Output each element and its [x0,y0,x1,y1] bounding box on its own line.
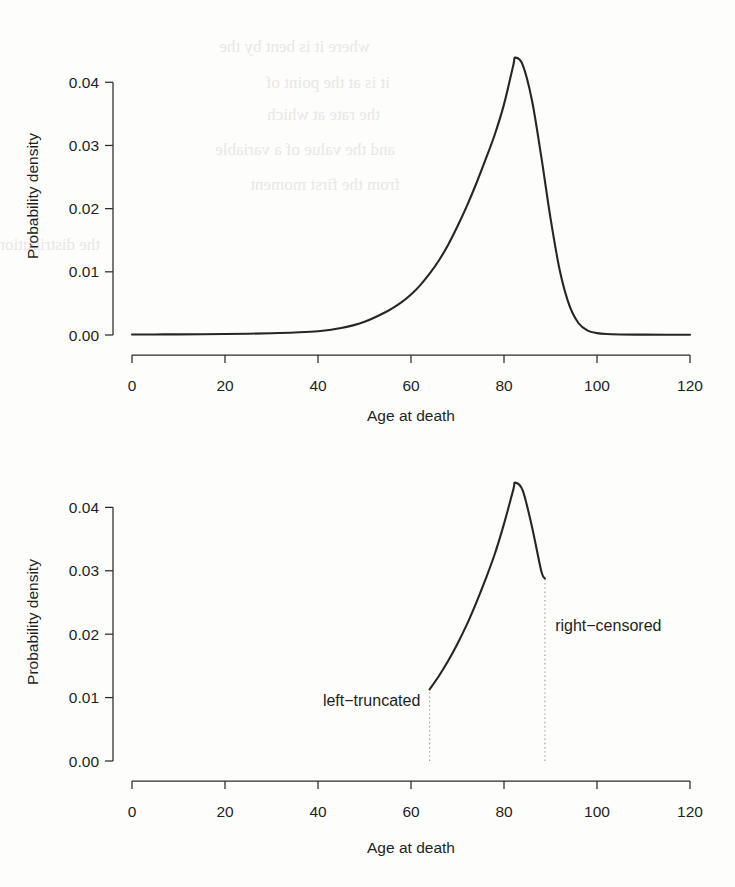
y-tick-label: 0.01 [69,263,99,280]
page-background [0,0,735,887]
x-tick-label: 40 [309,377,327,394]
y-tick-label: 0.02 [69,200,99,217]
showthrough-line: and the value of a variable [215,140,395,159]
x-tick-label: 120 [677,377,703,394]
x-tick-label: 0 [128,803,137,820]
showthrough-line: the distribution [0,235,100,254]
x-tick-label: 0 [128,377,137,394]
y-tick-label: 0.00 [69,753,100,770]
x-axis-title: Age at death [367,839,455,856]
annotation-label-left-truncated: left−truncated [323,692,420,709]
y-tick-label: 0.04 [69,74,100,91]
x-tick-label: 100 [584,803,610,820]
x-axis-title: Age at death [367,407,455,424]
x-tick-label: 60 [402,803,420,820]
y-axis-title: Probability density [24,559,41,685]
y-axis-title: Probability density [24,133,41,259]
y-tick-label: 0.02 [69,626,99,643]
y-tick-label: 0.03 [69,562,99,579]
x-tick-label: 80 [495,803,513,820]
showthrough-line: it is at the point of [265,73,390,92]
x-tick-label: 60 [402,377,420,394]
y-tick-label: 0.01 [69,689,99,706]
x-tick-label: 80 [495,377,513,394]
y-tick-label: 0.03 [69,137,99,154]
y-tick-label: 0.00 [69,327,100,344]
x-tick-label: 100 [584,377,610,394]
showthrough-line: the rate at which [267,105,380,124]
figure-canvas: where it is bent by theit is at the poin… [0,0,735,887]
x-tick-label: 20 [216,377,234,394]
y-tick-label: 0.04 [69,499,100,516]
x-tick-label: 20 [216,803,234,820]
x-tick-label: 120 [677,803,703,820]
showthrough-line: where it is bent by the [219,37,370,56]
x-tick-label: 40 [309,803,327,820]
annotation-label-right-censored: right−censored [555,617,661,634]
showthrough-line: from the first moment [250,175,400,194]
